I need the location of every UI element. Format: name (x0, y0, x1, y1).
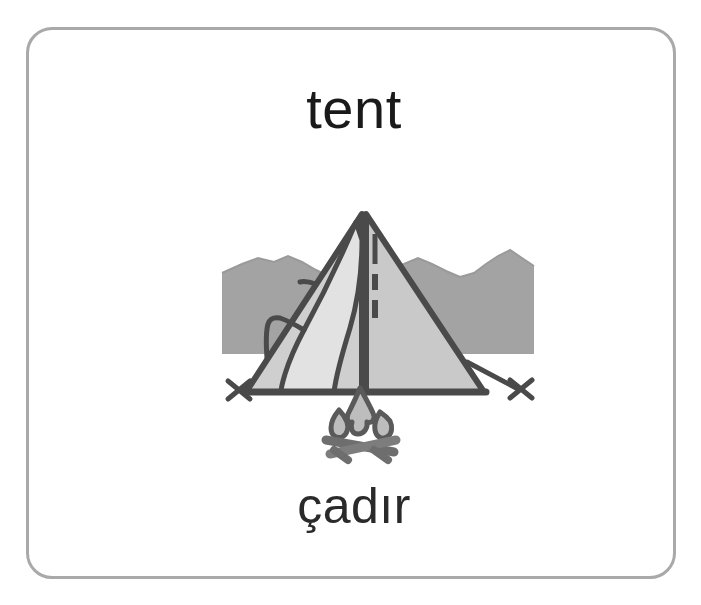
page-title: tent (29, 78, 679, 140)
translation-text: çadır (29, 478, 679, 534)
tent-illustration (184, 178, 544, 468)
campfire-icon (326, 388, 396, 460)
flashcard-stage: tent (0, 0, 701, 605)
vocabulary-card[interactable]: tent (26, 27, 676, 579)
